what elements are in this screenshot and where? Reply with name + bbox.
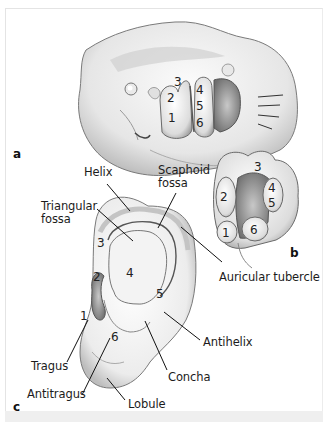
panel-c-number-3: 3 [97,236,105,250]
panel-a-hillock-6: 6 [196,116,204,130]
label-triangular-fossa-line2: fossa [41,213,71,226]
panel-a-hillock-1: 1 [168,111,176,125]
panel-c-number-6: 6 [111,330,119,344]
label-tragus: Tragus [31,360,68,373]
panel-b-hillocks: 3 2 1 4 5 6 [214,151,299,268]
panel-b-hillock-1: 1 [222,226,230,240]
panel-letter-c: c [13,400,20,414]
label-lobule: Lobule [128,398,166,411]
panel-b-hillock-4: 4 [268,181,276,195]
panel-a-hillock-5: 5 [196,99,204,113]
panel-b-hillock-3: 3 [254,160,262,174]
panel-a-hillock-4: 4 [196,83,204,97]
panel-c-auricle: 3 2 4 5 1 6 [80,197,196,388]
panel-b-hillock-6: 6 [250,223,258,237]
label-auricular-tubercle: Auricular tubercle [219,271,320,284]
panel-letter-b: b [290,246,299,260]
label-helix: Helix [84,166,112,179]
panel-b-hillock-2: 2 [220,190,228,204]
panel-c-number-4: 4 [126,266,134,280]
panel-c-number-2: 2 [93,270,101,284]
panel-a-hillock-3: 3 [174,75,182,89]
panel-b-hillock-5: 5 [268,196,276,210]
panel-letter-a: a [13,147,21,161]
label-concha: Concha [168,371,210,384]
label-antitragus: Antitragus [27,388,86,401]
panel-a-hillock-2: 2 [167,91,175,105]
panel-c-number-5: 5 [156,287,164,301]
label-antihelix: Antihelix [203,336,253,349]
panel-c-number-1: 1 [80,309,88,323]
label-scaphoid-fossa-line2: fossa [158,177,188,190]
